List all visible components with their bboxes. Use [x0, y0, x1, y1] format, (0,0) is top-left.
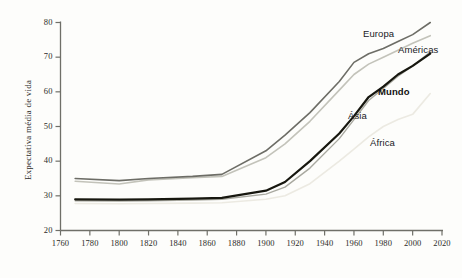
- series-label-sia: Ásia: [348, 110, 367, 121]
- y-axis-tick-label: 50: [31, 121, 53, 131]
- y-axis-tick-label: 30: [31, 190, 53, 200]
- y-axis-tick-label: 80: [31, 17, 53, 27]
- series-line-europa: [75, 23, 430, 181]
- series-label-amricas: Américas: [398, 44, 438, 55]
- y-axis-tick-label: 60: [31, 86, 53, 96]
- x-axis-tick-label: 2020: [425, 238, 459, 248]
- series-label-mundo: Mundo: [378, 86, 410, 97]
- series-line-sia: [75, 52, 430, 201]
- series-label-europa: Europa: [363, 28, 394, 39]
- life-expectancy-chart: Expectativa média de vida 20304050607080…: [0, 0, 462, 278]
- y-axis-tick-label: 20: [31, 225, 53, 235]
- series-line-mundo: [75, 54, 430, 200]
- series-line-amricas: [75, 36, 430, 184]
- series-label-frica: África: [370, 137, 395, 148]
- y-axis-tick-label: 70: [31, 51, 53, 61]
- series-line-frica: [75, 94, 430, 204]
- y-axis-tick-label: 40: [31, 155, 53, 165]
